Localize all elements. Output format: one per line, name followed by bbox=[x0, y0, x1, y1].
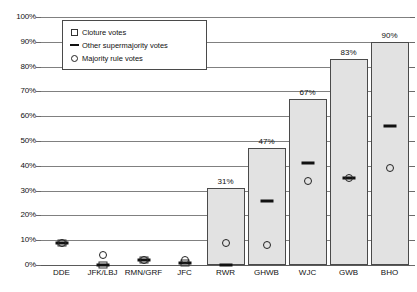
y-axis-tick-mark-right bbox=[410, 116, 415, 117]
y-axis-tick-mark bbox=[36, 91, 41, 92]
bar-value-label: 83% bbox=[340, 48, 356, 57]
y-axis-tick-mark-right bbox=[410, 191, 415, 192]
x-axis-tick-label: WJC bbox=[287, 268, 328, 277]
x-axis-tick-label: DDE bbox=[41, 268, 82, 277]
dash-marker-icon-shape bbox=[70, 44, 79, 46]
legend-item[interactable]: Cloture votes bbox=[68, 26, 201, 38]
marker-majority-rule-votes[interactable] bbox=[304, 177, 312, 185]
y-axis-tick-mark-right bbox=[410, 166, 415, 167]
bar-cloture-votes[interactable] bbox=[371, 42, 409, 265]
y-axis-tick-label: 60% bbox=[2, 112, 36, 120]
y-axis-tick-mark-right bbox=[410, 265, 415, 266]
x-axis-tick-label: GHWB bbox=[246, 268, 287, 277]
x-axis-tick-label: JFK/LBJ bbox=[82, 268, 123, 277]
circle-marker-icon-shape bbox=[71, 55, 78, 62]
x-axis-tick-label: JFC bbox=[164, 268, 205, 277]
square-marker-icon-shape bbox=[71, 29, 78, 36]
x-axis-tick-label: RMN/GRF bbox=[123, 268, 164, 277]
marker-majority-rule-votes[interactable] bbox=[222, 239, 230, 247]
marker-majority-rule-votes[interactable] bbox=[181, 256, 189, 264]
bar-value-label: 67% bbox=[299, 88, 315, 97]
chart-column[interactable]: 67% bbox=[287, 17, 328, 265]
y-axis-tick-mark bbox=[36, 17, 41, 18]
bar-value-label: 31% bbox=[217, 177, 233, 186]
legend-item-label: Other supermajority votes bbox=[82, 41, 168, 50]
y-axis-tick-mark-right bbox=[410, 67, 415, 68]
x-axis-tick-label: GWB bbox=[328, 268, 369, 277]
marker-majority-rule-votes[interactable] bbox=[345, 174, 353, 182]
y-axis-tick-label: 30% bbox=[2, 187, 36, 195]
square-marker-icon bbox=[68, 27, 80, 37]
y-axis-tick-label: 20% bbox=[2, 211, 36, 219]
chart-column[interactable]: 83% bbox=[328, 17, 369, 265]
marker-other-supermajority-votes[interactable] bbox=[301, 162, 314, 165]
y-axis-tick-mark bbox=[36, 215, 41, 216]
marker-majority-rule-votes[interactable] bbox=[263, 241, 271, 249]
legend-item[interactable]: Other supermajority votes bbox=[68, 39, 201, 51]
y-axis-tick-mark-right bbox=[410, 91, 415, 92]
y-axis-tick-mark bbox=[36, 42, 41, 43]
bar-cloture-votes[interactable] bbox=[330, 59, 368, 265]
dash-marker-icon bbox=[68, 40, 80, 50]
y-axis-tick-label: 40% bbox=[2, 162, 36, 170]
y-axis-tick-mark-right bbox=[410, 240, 415, 241]
y-axis-tick-label: 0% bbox=[2, 261, 36, 269]
y-axis-tick-mark-right bbox=[410, 17, 415, 18]
y-axis-tick-label: 100% bbox=[2, 13, 36, 21]
y-axis-tick-mark-right bbox=[410, 42, 415, 43]
bar-value-label: 47% bbox=[258, 137, 274, 146]
circle-marker-icon bbox=[68, 53, 80, 63]
y-axis-tick-mark bbox=[36, 191, 41, 192]
marker-majority-rule-votes[interactable] bbox=[386, 164, 394, 172]
y-axis-tick-mark-right bbox=[410, 141, 415, 142]
y-axis-tick-mark bbox=[36, 166, 41, 167]
chart-container: 31%47%67%83%90% Cloture votesOther super… bbox=[0, 0, 417, 292]
legend-item[interactable]: Majority rule votes bbox=[68, 52, 201, 64]
y-axis-tick-label: 50% bbox=[2, 137, 36, 145]
chart-legend: Cloture votesOther supermajority votesMa… bbox=[62, 20, 207, 70]
legend-item-label: Cloture votes bbox=[82, 28, 126, 37]
bar-value-label: 90% bbox=[381, 31, 397, 40]
y-axis-tick-label: 10% bbox=[2, 236, 36, 244]
y-axis-tick-label: 90% bbox=[2, 38, 36, 46]
marker-majority-rule-votes[interactable] bbox=[99, 251, 107, 259]
y-axis-tick-mark bbox=[36, 116, 41, 117]
marker-other-supermajority-votes[interactable] bbox=[260, 199, 273, 202]
x-axis-tick-label: BHO bbox=[369, 268, 410, 277]
y-axis-tick-mark bbox=[36, 265, 41, 266]
y-axis-tick-label: 70% bbox=[2, 87, 36, 95]
marker-majority-rule-votes[interactable] bbox=[140, 256, 148, 264]
marker-other-supermajority-votes[interactable] bbox=[219, 264, 232, 267]
bar-cloture-votes[interactable] bbox=[207, 188, 245, 265]
chart-column[interactable]: 90% bbox=[369, 17, 410, 265]
chart-column[interactable]: 31% bbox=[205, 17, 246, 265]
marker-majority-rule-votes[interactable] bbox=[58, 239, 66, 247]
marker-other-supermajority-votes[interactable] bbox=[96, 264, 109, 267]
y-axis-tick-label: 80% bbox=[2, 63, 36, 71]
y-axis-tick-mark bbox=[36, 240, 41, 241]
y-axis-tick-mark bbox=[36, 141, 41, 142]
chart-column[interactable]: 47% bbox=[246, 17, 287, 265]
y-axis-tick-mark bbox=[36, 67, 41, 68]
y-axis-tick-mark-right bbox=[410, 215, 415, 216]
legend-item-label: Majority rule votes bbox=[82, 54, 143, 63]
x-axis-tick-label: RWR bbox=[205, 268, 246, 277]
marker-other-supermajority-votes[interactable] bbox=[383, 125, 396, 128]
